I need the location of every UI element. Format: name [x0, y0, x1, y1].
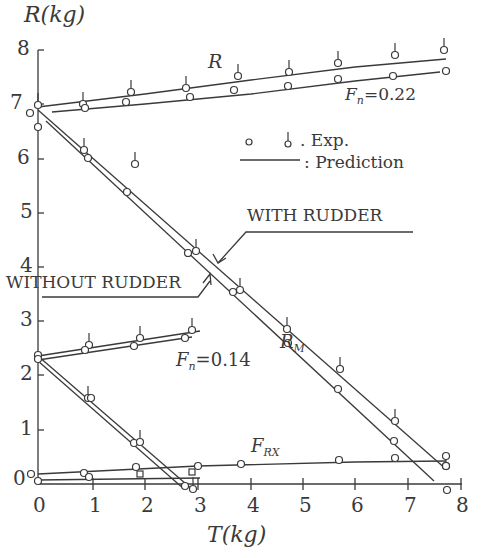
legend-exp-label: . Exp. — [300, 132, 349, 149]
y-tick-7: 7 — [10, 92, 23, 112]
rm-r: R — [280, 331, 294, 352]
x-tick-2: 2 — [141, 495, 154, 515]
fn-high-f: F — [345, 84, 357, 104]
y-tick-2: 2 — [20, 363, 33, 383]
without-rudder-arrowhead — [203, 274, 211, 285]
r-curve-label: R — [208, 52, 222, 71]
legend-open-circle-icon — [246, 139, 252, 145]
frx-markers — [28, 453, 450, 485]
x-tick-0: 0 — [33, 495, 46, 515]
r-low-without-rudder-line — [38, 337, 192, 360]
x-tick-1: 1 — [89, 495, 102, 515]
rm-without-rudder-line — [46, 121, 434, 481]
y-tick-1: 1 — [20, 418, 33, 438]
x-axis-label-text: T(kg) — [207, 522, 266, 547]
fn-low-label: Fn=0.14 — [176, 351, 251, 372]
x-tick-8: 8 — [456, 495, 469, 515]
rm-sub: M — [294, 342, 305, 355]
x-tick-6: 6 — [351, 495, 364, 515]
y-tick-5: 5 — [20, 201, 33, 221]
y-tick-8: 8 — [17, 38, 30, 58]
fn-high-sub: n — [357, 94, 364, 107]
legend-prediction-label: : Prediction — [304, 154, 404, 171]
y-tick-3: 3 — [20, 309, 33, 329]
rm-curve-label: RM — [280, 333, 305, 354]
x-tick-7: 7 — [404, 495, 417, 515]
fn-low-f: F — [176, 349, 189, 370]
x-axis-label: T(kg) — [207, 524, 266, 546]
frx-without-rudder-line — [38, 478, 200, 480]
y-axis-label: R(kg) — [24, 4, 85, 26]
frx-f: F — [251, 435, 264, 456]
fn-high-value: =0.22 — [364, 84, 416, 104]
x-tick-4: 4 — [247, 495, 260, 515]
frx-sub: RX — [264, 446, 280, 459]
x-tick-3: 3 — [194, 495, 207, 515]
y-tick-0: 0 — [13, 468, 26, 488]
with-rudder-leader — [218, 232, 413, 263]
frx-curve-label: FRX — [251, 437, 280, 458]
with-rudder-label: WITH RUDDER — [247, 207, 382, 224]
rm-with-rudder-markers — [81, 138, 450, 470]
y-axis-label-text: R(kg) — [24, 2, 85, 27]
fn-low-value: =0.14 — [196, 349, 251, 370]
y-tick-6: 6 — [17, 147, 30, 167]
x-tick-5: 5 — [299, 495, 312, 515]
legend-tick-circle-icon — [285, 141, 291, 147]
fn-low-sub: n — [189, 360, 196, 373]
without-rudder-label: WITHOUT RUDDER — [6, 274, 181, 291]
fn-high-label: Fn=0.22 — [345, 86, 416, 106]
